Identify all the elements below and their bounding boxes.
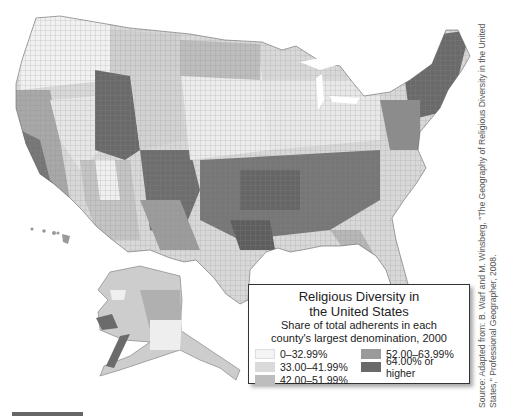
- legend-swatch: [255, 362, 275, 372]
- legend-item-1: 33.00–41.99%: [255, 361, 357, 373]
- legend-swatch: [255, 375, 275, 385]
- legend-subtitle-line2: county's largest denomination, 2000: [255, 332, 463, 345]
- hawaii: [30, 227, 70, 244]
- legend-label: 64.00% or higher: [386, 355, 463, 379]
- legend-item-2: 42.00–51.99%: [255, 374, 357, 386]
- source-credit: Source: Adapted from: B. Warf and M. Win…: [477, 8, 499, 408]
- legend-label: 0–32.99%: [280, 348, 327, 360]
- source-line2: States," Professional Geographer, 2008.: [488, 8, 499, 408]
- legend-item-4: 64.00% or higher: [361, 361, 463, 373]
- legend-subtitle-line1: Share of total adherents in each: [255, 319, 463, 332]
- legend-swatch: [361, 349, 381, 359]
- legend-label: 42.00–51.99%: [280, 374, 348, 386]
- legend-swatch: [361, 362, 381, 372]
- legend-item-0: 0–32.99%: [255, 348, 357, 360]
- source-line1: Source: Adapted from: B. Warf and M. Win…: [477, 8, 488, 408]
- legend-swatch: [255, 349, 275, 359]
- legend-title-line2: the United States: [255, 304, 463, 319]
- legend-label: 33.00–41.99%: [280, 361, 348, 373]
- legend-title-line1: Religious Diversity in: [255, 289, 463, 304]
- contiguous-us: [0, 0, 480, 320]
- map-legend: Religious Diversity in the United States…: [248, 284, 470, 384]
- decorative-bar: [12, 412, 83, 416]
